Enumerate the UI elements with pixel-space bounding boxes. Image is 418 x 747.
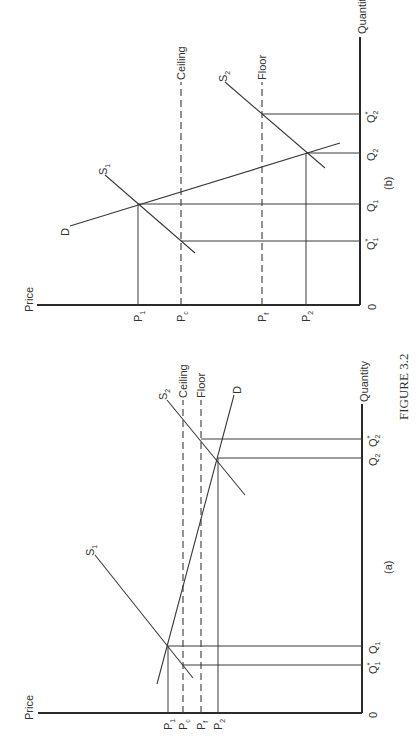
q2star-label-a: Q2*	[365, 434, 381, 447]
floor-label-b: Floor	[256, 55, 268, 80]
q2-label-a: Q2	[367, 453, 381, 466]
q1star-label-b: Q1*	[363, 237, 379, 250]
s2-label-a: S2	[157, 389, 171, 400]
supply-s2-curve-a	[167, 400, 245, 495]
q1-label-b: Q1	[365, 199, 379, 212]
panel-label-b: (b)	[382, 177, 394, 190]
price-axis-label-a: Price	[23, 695, 35, 720]
s1-label-b: S1	[97, 164, 111, 175]
floor-label-a: Floor	[195, 373, 207, 398]
panel-b: Price Quantity 0 (b) P1 Pc Pf P2 Q1* Q1 …	[23, 0, 394, 322]
q1-label-a: Q1	[367, 641, 381, 654]
p2-label-b: P2	[300, 311, 314, 322]
quantity-axis-label-a: Quantity	[358, 361, 370, 402]
pf-label-b: Pf	[256, 313, 270, 322]
p2-label-a: P2	[212, 719, 226, 730]
s2-label-b: S2	[217, 71, 231, 82]
demand-label-b: D	[59, 228, 71, 236]
p1-label-a: P1	[162, 719, 176, 730]
supply-s1-curve-a	[95, 555, 193, 678]
ceiling-label-b: Ceiling	[175, 46, 187, 80]
pc-label-a: Pc	[177, 719, 191, 730]
figure-caption: FIGURE 3.2	[396, 354, 411, 420]
q2star-label-b: Q2*	[363, 110, 379, 123]
figure-3-2: Price Quantity 0 (b) P1 Pc Pf P2 Q1* Q1 …	[0, 0, 418, 747]
panel-a: Price Quantity 0 (a) P1 Pc Pf P2 Q1* Q1 …	[23, 361, 394, 730]
demand-curve-a	[157, 395, 234, 684]
panel-label-a: (a)	[382, 561, 394, 574]
ceiling-label-a: Ceiling	[177, 364, 189, 398]
supply-s2-curve-b	[225, 82, 325, 168]
s1-label-a: S1	[84, 545, 98, 556]
price-axis-label-b: Price	[23, 287, 35, 312]
p1-label-b: P1	[132, 311, 146, 322]
origin-label-a: 0	[367, 712, 379, 718]
q2-label-b: Q2	[365, 148, 379, 161]
demand-curve-b	[70, 143, 340, 226]
pc-label-b: Pc	[175, 311, 189, 322]
demand-label-a: D	[231, 386, 243, 394]
pf-label-a: Pf	[195, 721, 209, 730]
origin-label-b: 0	[366, 304, 378, 310]
quantity-axis-label-b: Quantity	[356, 0, 368, 34]
q1star-label-a: Q1*	[365, 661, 381, 674]
